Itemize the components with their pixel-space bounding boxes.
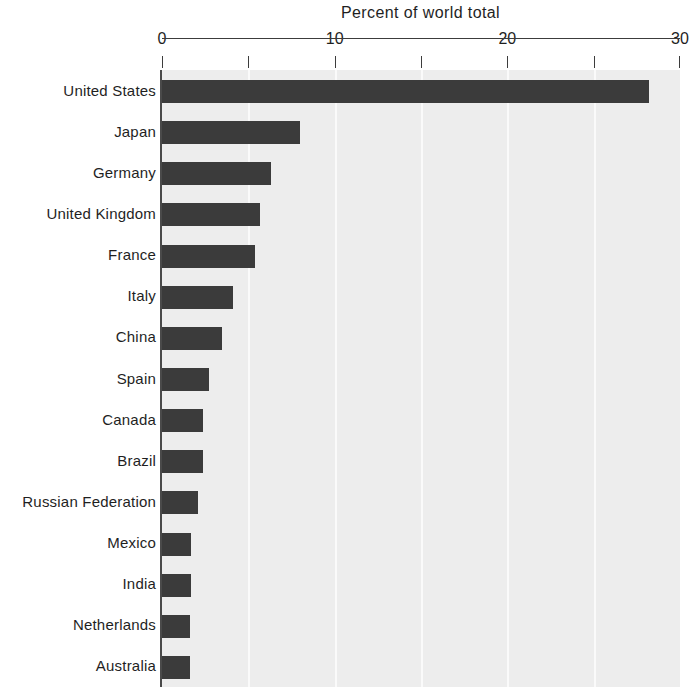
bar bbox=[162, 656, 190, 679]
bar bbox=[162, 203, 260, 226]
y-axis-line bbox=[160, 70, 162, 687]
bar bbox=[162, 409, 203, 432]
bar bbox=[162, 491, 198, 514]
category-label: United States bbox=[4, 82, 156, 99]
category-labels: United StatesJapanGermanyUnited KingdomF… bbox=[0, 0, 156, 693]
bar bbox=[162, 162, 271, 185]
category-label: United Kingdom bbox=[4, 205, 156, 222]
bar bbox=[162, 327, 222, 350]
bar bbox=[162, 80, 649, 103]
bar bbox=[162, 368, 209, 391]
x-tick-mark bbox=[421, 56, 422, 68]
bar bbox=[162, 574, 191, 597]
x-tick-label: 0 bbox=[158, 30, 167, 48]
category-label: Brazil bbox=[4, 452, 156, 469]
category-label: Netherlands bbox=[4, 616, 156, 633]
gridline bbox=[335, 70, 337, 687]
bar bbox=[162, 450, 203, 473]
x-tick-label: 30 bbox=[671, 30, 689, 48]
category-label: France bbox=[4, 246, 156, 263]
category-label: Australia bbox=[4, 657, 156, 674]
x-tick-mark bbox=[507, 56, 508, 68]
x-tick-mark bbox=[679, 56, 680, 68]
gridline bbox=[507, 70, 509, 687]
plot-area bbox=[162, 70, 680, 687]
category-label: Spain bbox=[4, 370, 156, 387]
x-tick-label: 10 bbox=[326, 30, 344, 48]
bar bbox=[162, 245, 255, 268]
x-tick-mark bbox=[162, 56, 163, 68]
category-label: Japan bbox=[4, 123, 156, 140]
bar-chart: Percent of world total 0102030 United St… bbox=[0, 0, 695, 693]
gridline bbox=[421, 70, 423, 687]
category-label: Germany bbox=[4, 164, 156, 181]
chart-title: Percent of world total bbox=[162, 4, 679, 22]
bar bbox=[162, 533, 191, 556]
category-label: Mexico bbox=[4, 534, 156, 551]
category-label: India bbox=[4, 575, 156, 592]
gridline bbox=[594, 70, 596, 687]
category-label: Russian Federation bbox=[4, 493, 156, 510]
bar bbox=[162, 121, 300, 144]
category-label: Italy bbox=[4, 287, 156, 304]
category-label: Canada bbox=[4, 411, 156, 428]
category-label: China bbox=[4, 328, 156, 345]
bar bbox=[162, 615, 190, 638]
bar bbox=[162, 286, 233, 309]
x-tick-mark bbox=[594, 56, 595, 68]
x-tick-label: 20 bbox=[498, 30, 516, 48]
x-tick-mark bbox=[335, 56, 336, 68]
x-axis-line bbox=[162, 38, 680, 39]
x-tick-mark bbox=[248, 56, 249, 68]
